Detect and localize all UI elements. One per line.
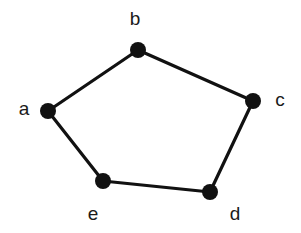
graph-node-label-d: d xyxy=(230,204,241,223)
graph-edge-e-a xyxy=(48,111,103,181)
graph-node-d xyxy=(202,184,218,200)
edge-layer xyxy=(48,50,253,192)
graph-canvas xyxy=(0,0,301,233)
graph-node-label-e: e xyxy=(88,204,99,223)
graph-node-label-c: c xyxy=(275,90,285,109)
graph-node-a xyxy=(40,103,56,119)
graph-edge-b-c xyxy=(138,50,253,101)
node-layer xyxy=(40,42,261,200)
graph-node-c xyxy=(245,93,261,109)
graph-node-b xyxy=(130,42,146,58)
graph-node-e xyxy=(95,173,111,189)
graph-edge-a-b xyxy=(48,50,138,111)
graph-edge-d-e xyxy=(103,181,210,192)
graph-figure: abcde xyxy=(0,0,301,233)
graph-node-label-a: a xyxy=(19,99,30,118)
graph-edge-c-d xyxy=(210,101,253,192)
graph-node-label-b: b xyxy=(130,9,141,28)
